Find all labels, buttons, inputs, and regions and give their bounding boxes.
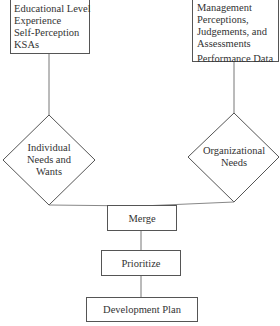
input-line: KSAs <box>14 39 89 51</box>
decision-line: Needs <box>194 157 274 169</box>
input-line: Educational Level <box>14 3 89 15</box>
development-plan-box: Development Plan <box>86 297 198 322</box>
input-line: Perceptions, <box>197 14 278 26</box>
input-line: Self-Perception <box>14 27 89 39</box>
decision-label-organizational-needs: Organizational Needs <box>194 145 274 169</box>
input-line: Judgements, and <box>197 26 278 38</box>
input-line: Assessments <box>197 38 278 50</box>
merge-label: Merge <box>128 213 155 224</box>
input-line: Experience <box>14 15 89 27</box>
decision-label-individual-needs: Individual Needs and Wants <box>14 142 84 178</box>
decision-line: Wants <box>14 166 84 178</box>
decision-line: Individual <box>14 142 84 154</box>
development-plan-label: Development Plan <box>103 304 181 315</box>
organizational-inputs-box: Management Perceptions, Judgements, and … <box>192 0 279 62</box>
input-line: Management <box>197 2 278 14</box>
prioritize-box: Prioritize <box>101 250 181 276</box>
prioritize-label: Prioritize <box>121 258 160 269</box>
individual-inputs-box: Educational Level Experience Self-Percep… <box>10 0 90 54</box>
decision-line: Needs and <box>14 154 84 166</box>
merge-box: Merge <box>107 205 177 231</box>
decision-line: Organizational <box>194 145 274 157</box>
input-line-performance-data: Performance Data <box>197 53 278 65</box>
